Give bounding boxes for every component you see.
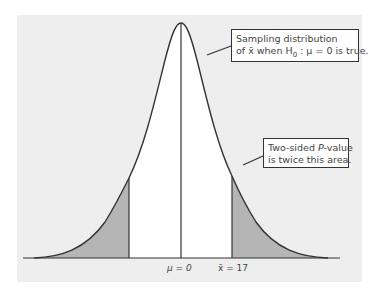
sampling-pointer xyxy=(207,46,231,55)
mu-label: μ = 0 xyxy=(167,263,192,273)
left-tail-area xyxy=(34,178,129,258)
xbar-label: x̄ = 17 xyxy=(218,263,248,273)
p-value-callout: Two-sided P-value is twice this area. xyxy=(263,138,349,168)
pvalue-pointer xyxy=(243,156,263,165)
sampling-callout-line2: of x̄ when H0 : μ = 0 is true. xyxy=(236,45,354,61)
sampling-distribution-callout: Sampling distribution of x̄ when H0 : μ … xyxy=(231,29,359,62)
sampling-callout-line1: Sampling distribution xyxy=(236,33,354,45)
pvalue-callout-line1: Two-sided P-value xyxy=(268,142,344,154)
pvalue-callout-line2: is twice this area. xyxy=(268,154,344,166)
